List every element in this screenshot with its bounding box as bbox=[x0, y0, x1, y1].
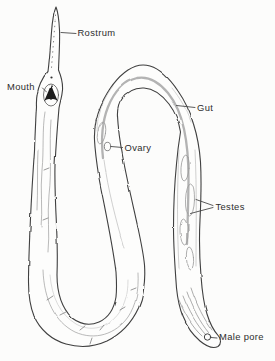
anatomy-diagram: Rostrum Mouth Gut Ovary Testes Male pore bbox=[0, 0, 275, 361]
worm-body-outline bbox=[29, 7, 221, 347]
male-pore-leader-line bbox=[211, 338, 217, 339]
gut-label: Gut bbox=[197, 102, 213, 113]
mouth-label: Mouth bbox=[7, 81, 35, 92]
worm-anatomy-figure: Rostrum Mouth Gut Ovary Testes Male pore bbox=[0, 0, 275, 361]
worm-drawing bbox=[29, 7, 221, 347]
ovary-label: Ovary bbox=[125, 142, 152, 153]
male-pore-circle bbox=[204, 334, 210, 340]
rostrum-leader-line bbox=[61, 33, 76, 34]
testes-label: Testes bbox=[216, 201, 245, 212]
male-pore-label: Male pore bbox=[219, 331, 264, 342]
rostrum-label: Rostrum bbox=[78, 27, 116, 38]
head-dot bbox=[50, 76, 52, 78]
